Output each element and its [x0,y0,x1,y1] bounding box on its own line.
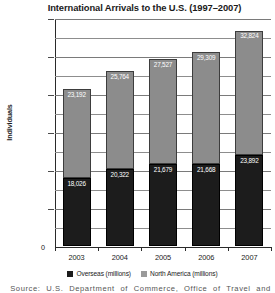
bar-value-label-overseas: 21,679 [149,166,177,173]
x-axis-line [55,247,271,248]
bar-segment-overseas[interactable] [63,178,91,246]
x-tick-label: 2003 [55,253,99,262]
y-tick-mark [48,95,54,96]
y-tick-mark [48,209,54,210]
chart-legend: Overseas (millions) North America (milli… [0,270,275,277]
x-tick-label: 2006 [184,253,228,262]
x-tick-label: 2007 [227,253,271,262]
bar-segment-overseas[interactable] [106,169,134,246]
chart-container: International Arrivals to the U.S. (1997… [0,0,275,293]
bar-value-label-north-america: 29,309 [192,54,220,61]
x-tick-mark [185,247,186,251]
x-tick-mark [228,247,229,251]
bar-segment-north-america[interactable] [235,31,263,156]
x-tick-label: 2004 [98,253,142,262]
bar-segment-north-america[interactable] [106,71,134,169]
x-tick-mark [141,247,142,251]
bar-segment-north-america[interactable] [149,59,177,164]
legend-item-overseas[interactable]: Overseas (millions) [67,270,131,277]
y-tick-mark [48,19,54,20]
y-tick-mark [48,133,54,134]
bar-value-label-north-america: 25,764 [106,73,134,80]
bar-segment-north-america[interactable] [192,52,220,163]
x-tick-mark [55,247,56,251]
y-tick-mark [48,57,54,58]
legend-label-north-america: North America (millions) [150,270,218,277]
legend-label-overseas: Overseas (millions) [76,270,131,277]
bar-value-label-overseas: 18,026 [63,180,91,187]
bar-value-label-overseas: 21,668 [192,166,220,173]
chart-title: International Arrivals to the U.S. (1997… [0,2,275,13]
x-tick-label: 2005 [141,253,185,262]
bar-segment-overseas[interactable] [192,164,220,246]
bar-value-label-overseas: 23,892 [235,157,263,164]
x-tick-mark [271,247,272,251]
bar-segment-overseas[interactable] [235,155,263,246]
bar-segment-north-america[interactable] [63,89,91,177]
bar-value-label-overseas: 20,322 [106,171,134,178]
y-zero-label: 0 [41,243,45,252]
x-tick-mark [98,247,99,251]
bar-value-label-north-america: 32,824 [235,32,263,39]
source-note: Source: U.S. Department of Commerce, Off… [0,284,275,293]
legend-swatch-overseas-icon [67,271,73,277]
bar-segment-overseas[interactable] [149,164,177,246]
plot-area: 60,00050,00040,00030,00020,00010,0000 18… [55,19,271,247]
legend-swatch-north-america-icon [141,271,147,277]
legend-item-north-america[interactable]: North America (millions) [141,270,218,277]
y-tick-mark [48,171,54,172]
y-axis-title: Individuals [5,88,14,158]
bar-value-label-north-america: 27,527 [149,61,177,68]
gridline-major [55,19,271,20]
bar-value-label-north-america: 23,192 [63,91,91,98]
